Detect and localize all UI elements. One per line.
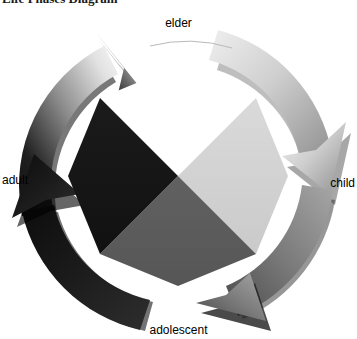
page-heading: Life Phases Diagram — [2, 0, 118, 6]
cycle-diagram: elder child adult adolescent — [0, 8, 357, 339]
cycle-label-adult: adult — [2, 173, 28, 187]
cycle-diagram-svg — [0, 8, 357, 339]
cycle-label-child: child — [330, 176, 355, 190]
center-diamond — [68, 66, 288, 286]
page-heading-clip: Life Phases Diagram — [0, 0, 357, 7]
cycle-label-elder: elder — [0, 16, 357, 30]
cycle-label-adolescent: adolescent — [0, 323, 357, 337]
